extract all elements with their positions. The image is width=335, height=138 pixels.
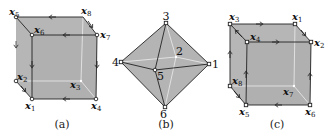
caption-a: (a) [54,118,69,131]
label-a-x1: x1 [24,100,35,113]
cube-c-hidden-vertex [293,85,295,87]
panel-a-cube: x5 x8 x6 x7 x2 x3 x1 x4 (a) [8,5,110,131]
cube-a-front-face [32,35,97,99]
label-c-x6: x6 [304,106,316,119]
label-c-x5: x5 [238,106,249,119]
caption-c: (c) [270,118,285,131]
label-a-x8: x8 [80,5,91,18]
label-b-2: 2 [176,45,183,58]
label-b-3: 3 [163,10,170,23]
panel-c-cube: x3 x1 x4 x2 x8 x7 x5 x6 (c) [228,11,324,131]
panel-b-octahedron: 3 1 4 2 5 6 (b) [112,10,219,131]
caption-b: (b) [158,118,174,131]
label-b-1: 1 [212,58,219,71]
label-c-x2: x2 [313,37,324,50]
cube-c-front-face [246,42,311,105]
label-a-x4: x4 [90,100,102,113]
diagram-figure: x5 x8 x6 x7 x2 x3 x1 x4 (a) [0,0,335,138]
cube-a-hidden-vertex [80,80,82,82]
label-b-5: 5 [157,70,164,83]
label-b-4: 4 [112,56,119,69]
label-a-x7: x7 [99,29,110,42]
label-a-x5: x5 [8,6,19,19]
